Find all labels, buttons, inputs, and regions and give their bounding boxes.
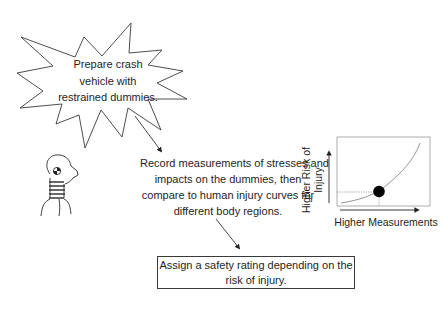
step-rating-line-1: Assign a safety rating depending on the (158, 258, 354, 273)
injury-curve-chart (329, 137, 430, 210)
step-rating-text: Assign a safety rating depending on the … (158, 258, 354, 288)
step-prepare-line-2: vehicle with (40, 73, 176, 90)
crash-test-dummy-icon (41, 155, 78, 216)
chart-x-axis-label: Higher Measurements (330, 216, 442, 228)
step-record-line-2: impacts on the dummies, then (140, 171, 316, 187)
step-prepare-line-1: Prepare crash (40, 56, 176, 73)
y-label-line-2: Injury (312, 147, 324, 213)
chart-y-axis-label: Higher Risk of Injury (297, 150, 327, 210)
step-rating-box: Assign a safety rating depending on the … (157, 256, 355, 289)
step-rating-line-2: risk of injury. (158, 273, 354, 288)
risk-marker-dot (373, 186, 385, 198)
step-record-line-1: Record measurements of stresses and (140, 155, 316, 171)
step-prepare-line-3: restrained dummies. (40, 89, 176, 106)
y-label-line-1: Higher Risk of (300, 147, 312, 213)
step-record-line-4: different body regions. (140, 203, 316, 219)
step-prepare-text: Prepare crash vehicle with restrained du… (40, 56, 176, 106)
arrow-record-to-rating (216, 219, 239, 248)
chart-frame (337, 137, 430, 206)
step-record-line-3: compare to human injury curves for (140, 187, 316, 203)
step-record-text: Record measurements of stresses and impa… (140, 155, 316, 219)
